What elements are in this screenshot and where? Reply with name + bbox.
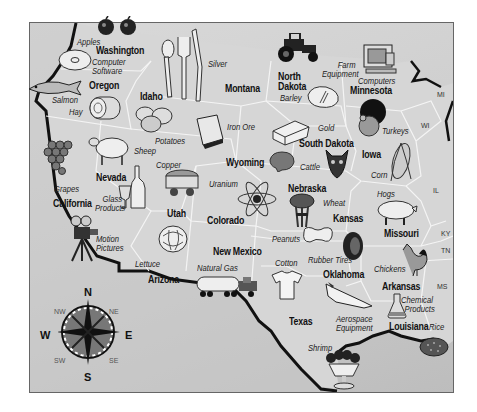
abbr-ky: KY bbox=[441, 230, 450, 237]
rice-icon bbox=[418, 333, 450, 361]
product-lettuce: Lettuce bbox=[135, 260, 160, 269]
product-cotton: Cotton bbox=[275, 259, 298, 268]
product-shrimp: Shrimp bbox=[308, 344, 332, 353]
product-rubber-tires: Rubber Tires bbox=[308, 256, 352, 265]
product-farm-equipment: Farm Equipment bbox=[322, 61, 359, 79]
copper-ore-cart-icon bbox=[164, 168, 200, 202]
compass-s: S bbox=[84, 372, 91, 383]
state-idaho: Idaho bbox=[140, 92, 163, 102]
product-chemical-products-line2: Products bbox=[405, 304, 435, 314]
state-north-dakota-line2: Dakota bbox=[278, 81, 306, 92]
product-chemical-products: Chemical Products bbox=[401, 296, 435, 314]
compass-ne: NE bbox=[109, 308, 119, 315]
product-motion-pictures-line2: Pictures bbox=[96, 243, 124, 253]
silverware-icon bbox=[160, 27, 204, 109]
product-apples: Apples bbox=[77, 38, 100, 47]
barley-sack-icon bbox=[306, 83, 340, 113]
abbr-ms: MS bbox=[437, 283, 448, 290]
t-shirt-icon bbox=[270, 269, 304, 305]
state-texas: Texas bbox=[289, 317, 312, 327]
state-nevada: Nevada bbox=[96, 173, 126, 183]
product-farm-equipment-line2: Equipment bbox=[322, 69, 359, 79]
abbr-tn: TN bbox=[441, 247, 450, 254]
product-aerospace-equipment: Aerospace Equipment bbox=[336, 315, 373, 333]
cow-icon bbox=[322, 146, 352, 184]
abbr-il: IL bbox=[433, 187, 439, 194]
product-salmon: Salmon bbox=[52, 96, 78, 105]
state-arizona: Arizona bbox=[148, 275, 179, 285]
state-nebraska: Nebraska bbox=[288, 184, 326, 194]
compass-n: N bbox=[84, 287, 92, 298]
product-potatoes: Potatoes bbox=[155, 137, 185, 146]
product-copper: Copper bbox=[156, 161, 181, 170]
product-iron-ore: Iron Ore bbox=[227, 123, 255, 132]
state-north-dakota: North Dakota bbox=[278, 72, 306, 92]
state-new-mexico: New Mexico bbox=[213, 247, 262, 257]
compass-w: W bbox=[40, 330, 50, 341]
state-arkansas: Arkansas bbox=[382, 282, 420, 292]
state-oregon: Oregon bbox=[89, 81, 119, 91]
product-aerospace-equipment-line2: Equipment bbox=[336, 323, 373, 333]
iron-ore-ingot-icon bbox=[193, 113, 227, 155]
state-louisiana: Louisiana bbox=[389, 322, 428, 332]
product-gold: Gold bbox=[318, 124, 334, 133]
compass-e: E bbox=[125, 330, 132, 341]
state-washington: Washington bbox=[96, 46, 144, 56]
hog-icon bbox=[374, 198, 418, 230]
state-iowa: Iowa bbox=[362, 150, 381, 160]
tanker-truck-icon bbox=[195, 273, 261, 303]
rooster-icon bbox=[399, 240, 429, 280]
product-computer-software: Computer Software bbox=[92, 58, 126, 76]
lettuce-icon bbox=[157, 224, 189, 258]
product-silver: Silver bbox=[208, 60, 227, 69]
product-wheat: Wheat bbox=[323, 199, 345, 208]
product-grapes: Grapes bbox=[54, 185, 79, 194]
state-montana: Montana bbox=[225, 84, 260, 94]
state-colorado: Colorado bbox=[207, 216, 244, 226]
tractor-icon bbox=[272, 33, 320, 67]
potatoes-icon bbox=[134, 104, 174, 138]
product-corn: Corn bbox=[371, 171, 388, 180]
computer-icon bbox=[362, 43, 398, 79]
state-kansas: Kansas bbox=[333, 214, 363, 224]
peanut-icon bbox=[300, 224, 336, 250]
product-turkeys: Turkeys bbox=[382, 127, 409, 136]
compass-sw: SW bbox=[54, 357, 65, 364]
compass-nw: NW bbox=[54, 308, 66, 315]
state-wyoming: Wyoming bbox=[226, 158, 264, 168]
turkey-icon bbox=[355, 98, 387, 144]
hay-bale-icon bbox=[86, 95, 122, 125]
product-hay: Hay bbox=[69, 108, 83, 117]
product-sheep: Sheep bbox=[134, 147, 156, 156]
product-computer-software-line2: Software bbox=[92, 66, 122, 76]
product-motion-pictures: Motion Pictures bbox=[96, 235, 124, 253]
state-california: California bbox=[53, 199, 92, 209]
product-peanuts: Peanuts bbox=[272, 235, 300, 244]
product-glass-products-line2: Products bbox=[95, 203, 125, 213]
apple-icon bbox=[96, 16, 140, 40]
product-natural-gas: Natural Gas bbox=[197, 264, 238, 273]
space-shuttle-icon bbox=[324, 280, 374, 316]
abbr-mi: MI bbox=[437, 91, 445, 98]
product-uranium: Uranium bbox=[209, 180, 238, 189]
cd-disc-icon bbox=[58, 49, 92, 75]
state-missouri: Missouri bbox=[384, 229, 419, 239]
state-utah: Utah bbox=[167, 209, 186, 219]
product-hogs: Hogs bbox=[377, 190, 395, 199]
product-glass-products: Glass Products bbox=[95, 195, 125, 213]
state-oklahoma: Oklahoma bbox=[323, 270, 364, 280]
product-rice: Rice bbox=[429, 323, 444, 332]
product-chickens: Chickens bbox=[374, 265, 405, 274]
cattle-steak-icon bbox=[268, 150, 296, 176]
grapes-icon bbox=[42, 137, 78, 181]
state-minnesota: Minnesota bbox=[350, 86, 392, 96]
state-south-dakota: South Dakota bbox=[299, 139, 354, 149]
shrimp-cocktail-icon bbox=[323, 350, 365, 394]
abbr-wi: WI bbox=[421, 122, 430, 129]
product-barley: Barley bbox=[280, 94, 302, 103]
compass-se: SE bbox=[109, 357, 118, 364]
corn-icon bbox=[387, 141, 415, 187]
product-cattle: Cattle bbox=[300, 163, 320, 172]
product-computers: Computers bbox=[358, 77, 395, 86]
